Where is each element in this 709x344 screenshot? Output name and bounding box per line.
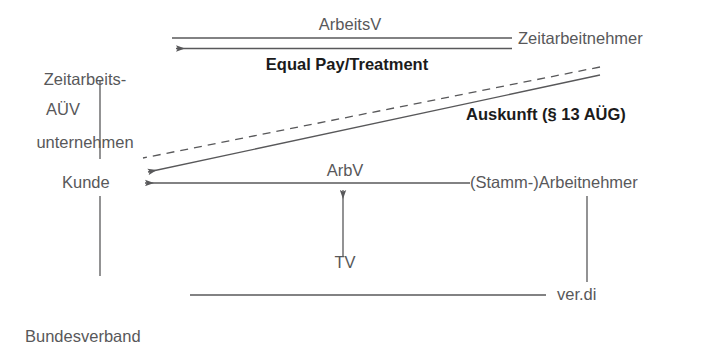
node-zeitarbeitsunternehmen-line1: Zeitarbeits- bbox=[10, 69, 160, 90]
node-bundesverband-line1: Bundesverband bbox=[25, 326, 200, 344]
edge-label-arbeitsv: ArbeitsV bbox=[280, 14, 420, 35]
edge-label-arbv: ArbV bbox=[300, 160, 390, 181]
node-verdi: ver.di bbox=[557, 284, 657, 305]
edge-label-tv: TV bbox=[310, 252, 380, 273]
node-zeitarbeitnehmer: Zeitarbeitnehmer bbox=[518, 28, 708, 49]
node-kunde: Kunde bbox=[62, 172, 142, 193]
edge-label-auv: AÜV bbox=[46, 99, 116, 120]
zeitarbeit-relationship-diagram: Zeitarbeits- unternehmen Zeitarbeitnehme… bbox=[0, 0, 709, 344]
node-bundesverband-druck-und-medien: Bundesverband Druck und Medien bbox=[25, 284, 200, 344]
node-zeitarbeitsunternehmen-line2: unternehmen bbox=[10, 132, 160, 153]
edge-label-auskunft: Auskunft (§ 13 AÜG) bbox=[466, 104, 709, 125]
node-stamm-arbeitnehmer: (Stamm-)Arbeitnehmer bbox=[470, 172, 705, 193]
edge-label-equal-pay: Equal Pay/Treatment bbox=[222, 54, 472, 75]
